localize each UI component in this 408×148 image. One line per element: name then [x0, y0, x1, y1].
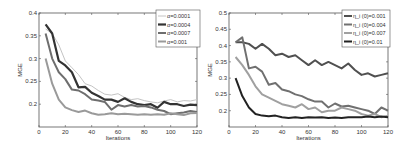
y-tick-label: 0.5 — [219, 10, 228, 16]
legend-label: η_i (0)=0.01 — [353, 39, 383, 45]
x-tick-label: 80 — [141, 129, 148, 135]
x-tick-label: 40 — [279, 129, 286, 135]
y-tick-label: 0.45 — [215, 26, 227, 32]
left-line-chart: 0204060801001200.20.250.30.350.4Iteratio… — [0, 0, 204, 148]
left-chart-panel: 0204060801001200.20.250.30.350.4Iteratio… — [0, 0, 204, 148]
y-tick-label: 0.35 — [25, 33, 37, 39]
x-axis-label: Iterations — [296, 135, 321, 141]
y-tick-label: 0.4 — [219, 43, 228, 49]
x-tick-label: 100 — [166, 129, 177, 135]
y-tick-label: 0.2 — [29, 101, 38, 107]
data-series-line — [236, 78, 388, 118]
y-tick-label: 0.25 — [25, 78, 37, 84]
legend-label: α=0.0001 — [167, 13, 190, 19]
legend-label: α=0.0007 — [167, 30, 190, 36]
x-tick-label: 0 — [227, 129, 231, 135]
x-tick-label: 0 — [37, 129, 41, 135]
data-series-line — [236, 42, 388, 76]
x-tick-label: 120 — [383, 129, 394, 135]
legend-label: η_i (0)=0.007 — [353, 30, 386, 36]
y-axis-label: MGE — [17, 63, 23, 77]
x-tick-label: 20 — [62, 129, 69, 135]
legend-label: α=0.0004 — [167, 22, 190, 28]
y-tick-label: 0.35 — [215, 59, 227, 65]
x-tick-label: 120 — [192, 129, 203, 135]
right-line-chart: 0204060801001200.20.250.30.350.40.450.5I… — [204, 0, 408, 148]
data-series-line — [236, 57, 388, 117]
y-axis-label: MGE — [207, 63, 213, 77]
x-tick-label: 40 — [88, 129, 95, 135]
x-tick-label: 100 — [356, 129, 367, 135]
x-tick-label: 80 — [332, 129, 339, 135]
y-tick-label: 0.25 — [215, 91, 227, 97]
x-tick-label: 20 — [252, 129, 259, 135]
y-tick-label: 0.2 — [219, 108, 228, 114]
x-axis-label: Iterations — [106, 135, 131, 141]
y-tick-label: 0.4 — [29, 10, 38, 16]
legend-label: α=0.001 — [167, 39, 187, 45]
legend-label: η_i (0)=0.004 — [353, 22, 386, 28]
y-tick-label: 0.3 — [219, 75, 228, 81]
y-tick-label: 0.3 — [29, 56, 38, 62]
legend-label: η_i (0)=0.001 — [353, 13, 386, 19]
right-chart-panel: 0204060801001200.20.250.30.350.40.450.5I… — [204, 0, 408, 148]
data-series-line — [236, 37, 388, 114]
